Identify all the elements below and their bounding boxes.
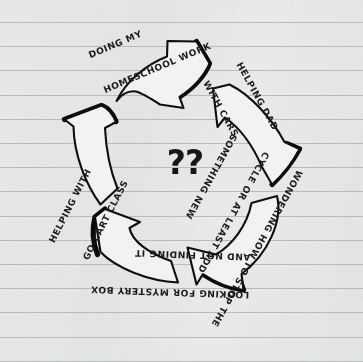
cycle-label-line: HELPING WITH xyxy=(46,161,97,245)
cycle-label-line: HELPING DAD xyxy=(233,60,281,133)
notebook-page: ?? DOING MY HOMESCHOOL WORK HELPING DAD … xyxy=(0,0,363,362)
cycle-label-line: LOOKING FOR MYSTERY BOX xyxy=(90,283,249,301)
cycle-label-line: GO-CART CLASS xyxy=(80,178,131,262)
